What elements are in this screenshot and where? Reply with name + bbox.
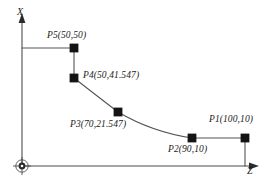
z-axis <box>22 163 259 170</box>
marker-p1 <box>241 134 250 143</box>
diagram-canvas <box>0 0 269 190</box>
origin-marker-icon <box>13 157 31 175</box>
marker-p5 <box>70 44 79 53</box>
marker-p4 <box>70 74 79 83</box>
x-axis <box>19 13 26 166</box>
point-label-p4: P4(50,41.547) <box>83 71 139 81</box>
x-axis-label: X <box>17 7 23 17</box>
marker-p3 <box>114 108 123 117</box>
z-axis-label: Z <box>247 166 253 176</box>
point-label-p2: P2(90,10) <box>168 145 207 155</box>
marker-p2 <box>188 134 197 143</box>
profile-path <box>22 48 245 166</box>
point-label-p1: P1(100,10) <box>209 115 253 125</box>
point-label-p3: P3(70,21.547) <box>70 120 126 130</box>
point-label-p5: P5(50,50) <box>47 31 86 41</box>
profile-diagram: P5(50,50) P4(50,41.547) P3(70,21.547) P2… <box>0 0 269 190</box>
